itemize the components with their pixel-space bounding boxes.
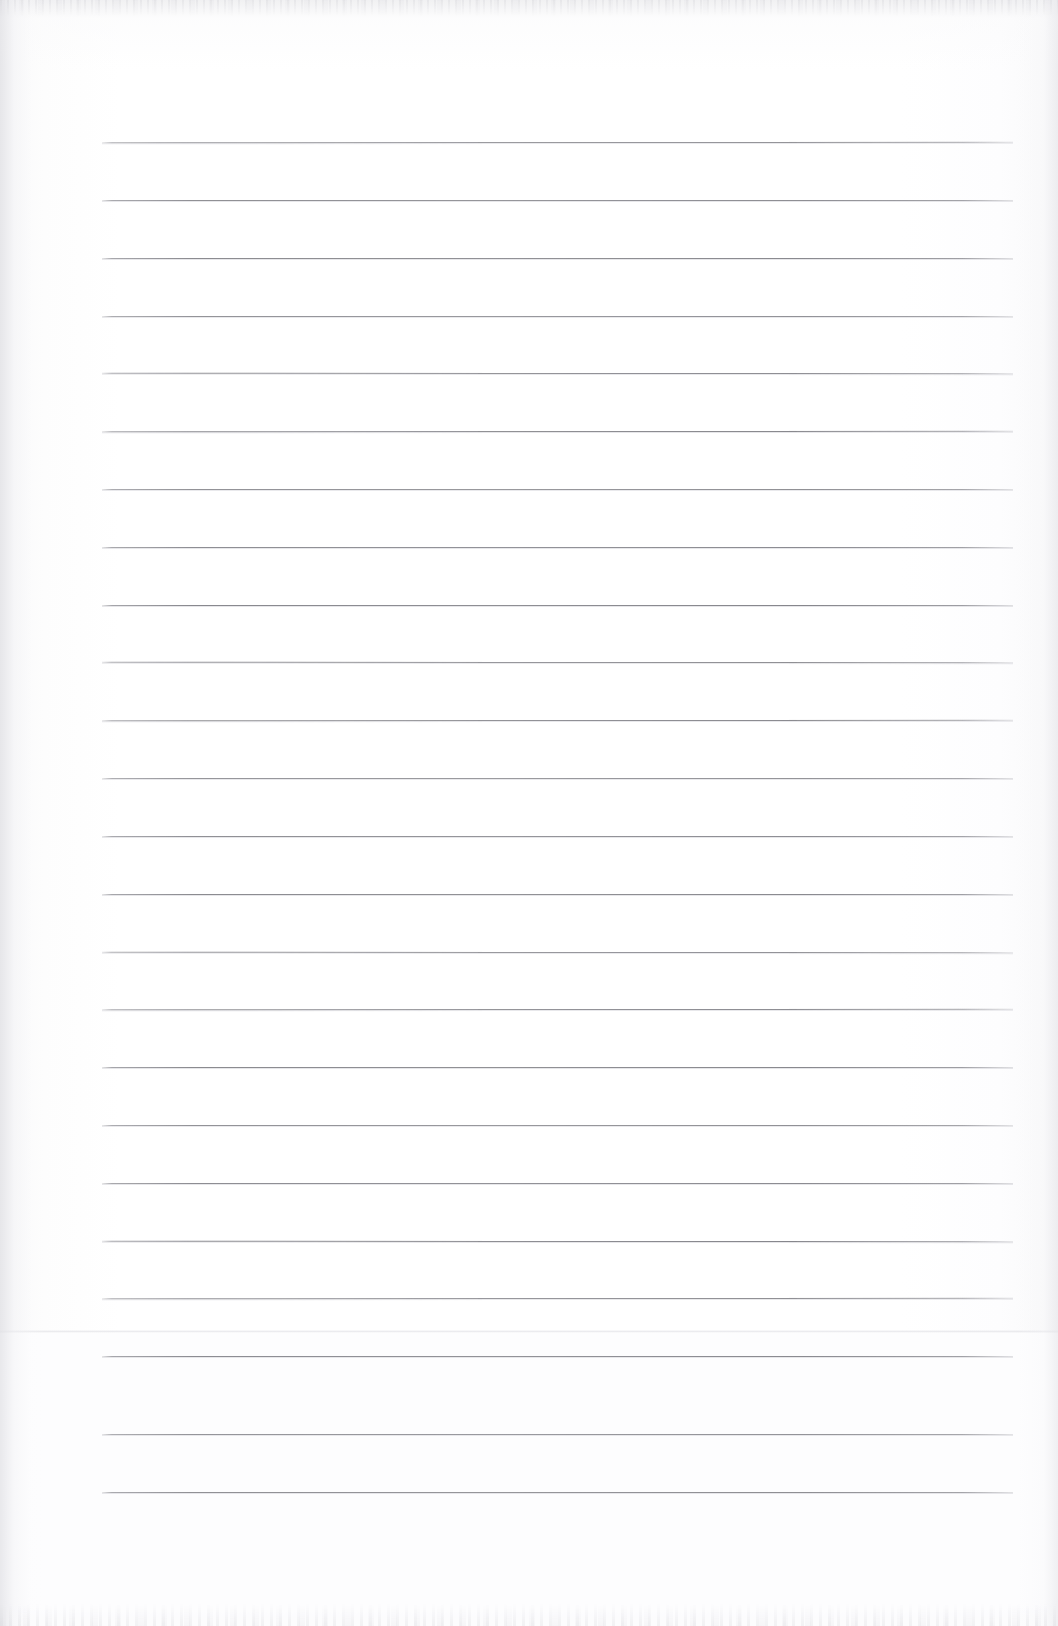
- rule-line: [102, 894, 1013, 895]
- bottom-scan-noise: [0, 1604, 1058, 1626]
- rule-line: [102, 778, 1013, 779]
- top-scan-noise: [0, 0, 1058, 16]
- rule-line: [102, 1298, 1013, 1299]
- rule-line: [102, 720, 1013, 721]
- rule-line: [102, 1183, 1013, 1184]
- rule-line: [102, 1492, 1013, 1493]
- rule-line: [102, 431, 1013, 432]
- rule-line: [102, 373, 1013, 374]
- rule-line: [102, 1434, 1013, 1435]
- scanned-page: [0, 0, 1058, 1626]
- rule-line: [102, 1356, 1013, 1357]
- rule-line: [102, 1241, 1013, 1242]
- rule-line: [102, 952, 1013, 953]
- rule-line: [102, 1125, 1013, 1126]
- rule-line: [102, 489, 1013, 490]
- rule-line: [102, 200, 1013, 201]
- rule-line: [102, 836, 1013, 837]
- rule-line: [102, 547, 1013, 548]
- ruled-lines-group: [0, 0, 1058, 1626]
- rule-line: [102, 1009, 1013, 1010]
- rule-line: [102, 258, 1013, 259]
- rule-line: [102, 662, 1013, 663]
- rule-line: [102, 316, 1013, 317]
- rule-line: [102, 605, 1013, 606]
- rule-line: [102, 1067, 1013, 1068]
- rule-line: [102, 142, 1013, 143]
